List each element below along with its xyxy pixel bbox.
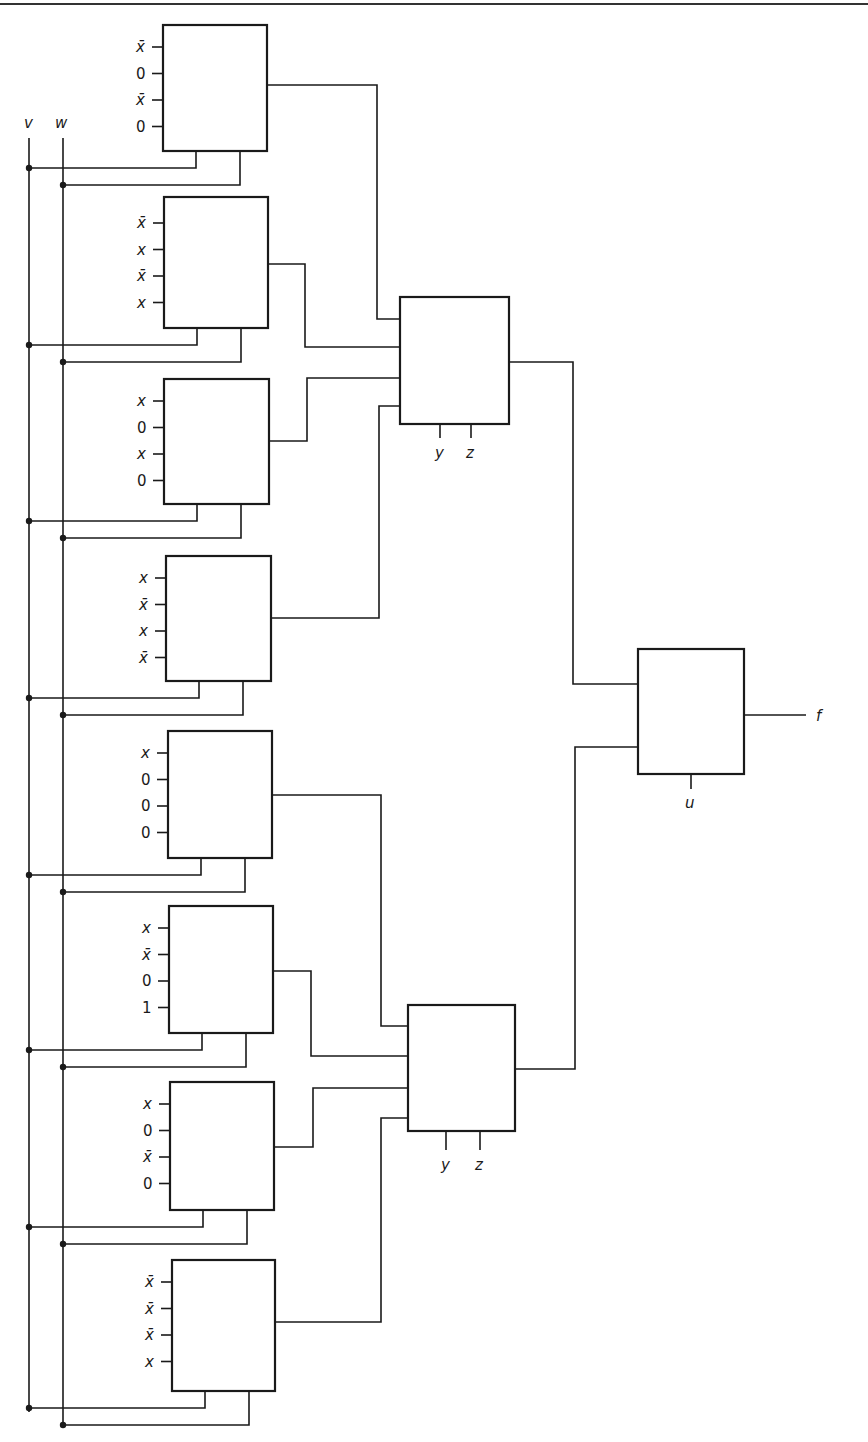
mux-10-select-y: y <box>440 1156 451 1174</box>
junction-dot <box>26 1224 32 1230</box>
mux-1-input-label: x̄ <box>135 38 145 56</box>
junction-dot <box>26 872 32 878</box>
mux-3-input-label: 0 <box>137 419 147 437</box>
select-label-v: v <box>24 114 34 132</box>
mux-5 <box>168 731 272 858</box>
mux-5-input-label: x <box>140 744 150 762</box>
mux-7-input-label: x̄ <box>142 1148 152 1166</box>
mux-4-input-label: x̄ <box>138 596 148 614</box>
junction-dot <box>60 359 66 365</box>
mux-1-select-v-wire <box>29 151 196 168</box>
junction-dot <box>26 1047 32 1053</box>
mux-7-select-v-wire <box>29 1210 203 1227</box>
junction-dot <box>26 1405 32 1411</box>
junction-dot <box>60 182 66 188</box>
junction-dot <box>60 889 66 895</box>
mux-6-input-label: 1 <box>142 999 152 1017</box>
wire-m4-to-m9 <box>271 406 400 618</box>
mux-6-input-label: x <box>141 919 151 937</box>
output-f-label: f <box>816 707 824 725</box>
wire-m2-to-m9 <box>268 264 400 347</box>
junction-dot <box>60 535 66 541</box>
mux-5-input-label: 0 <box>141 771 151 789</box>
wire-m1-to-m9 <box>267 85 400 319</box>
mux-1-input-label: 0 <box>136 118 146 136</box>
mux-7-input-label: 0 <box>143 1175 153 1193</box>
junction-dot <box>26 342 32 348</box>
mux-2 <box>164 197 268 328</box>
mux-8-input-label: x̄ <box>144 1273 154 1291</box>
mux-3-select-v-wire <box>29 504 197 521</box>
wire-m9-to-m11 <box>509 362 638 684</box>
junction-dot <box>60 1064 66 1070</box>
mux-1-input-label: x̄ <box>135 91 145 109</box>
wire-m10-to-m11 <box>515 747 638 1069</box>
mux-3-input-label: x <box>136 392 146 410</box>
select-label-w: w <box>55 114 68 132</box>
mux-1-input-label: 0 <box>136 65 146 83</box>
mux-8 <box>172 1260 275 1391</box>
wire-m3-to-m9 <box>269 378 400 441</box>
mux-4-input-label: x̄ <box>138 649 148 667</box>
mux-7-input-label: 0 <box>143 1122 153 1140</box>
mux-1 <box>163 25 267 151</box>
mux-5-input-label: 0 <box>141 797 151 815</box>
mux-3 <box>164 379 269 504</box>
junction-dot <box>26 518 32 524</box>
mux-2-input-label: x̄ <box>136 267 146 285</box>
mux-8-select-v-wire <box>29 1391 205 1408</box>
mux-11-select-u: u <box>685 794 695 812</box>
mux-9-select-z: z <box>465 444 475 462</box>
mux-7-input-label: x <box>142 1095 152 1113</box>
mux-3-input-label: 0 <box>137 472 147 490</box>
mux-3-input-label: x <box>136 445 146 463</box>
mux-4-select-v-wire <box>29 681 199 698</box>
mux-4-input-label: x <box>138 569 148 587</box>
mux-2-input-label: x <box>136 241 146 259</box>
junction-dot <box>26 695 32 701</box>
junction-dot <box>26 165 32 171</box>
mux-6-input-label: 0 <box>142 972 152 990</box>
junction-dot <box>60 1241 66 1247</box>
mux-8-input-label: x̄ <box>144 1300 154 1318</box>
mux-8-input-label: x <box>144 1353 154 1371</box>
mux-11-output <box>638 649 744 774</box>
mux-6-input-label: x̄ <box>141 946 151 964</box>
mux-4-input-label: x <box>138 622 148 640</box>
wire-m8-to-m10 <box>275 1118 408 1322</box>
mux-8-input-label: x̄ <box>144 1326 154 1344</box>
mux-2-input-label: x̄ <box>136 214 146 232</box>
junction-dot <box>60 1422 66 1428</box>
mux-10-select-z: z <box>474 1156 484 1174</box>
mux-6 <box>169 906 273 1033</box>
wire-m6-to-m10 <box>273 971 408 1056</box>
mux-4 <box>166 556 271 681</box>
wire-m5-to-m10 <box>272 795 408 1026</box>
mux-10 <box>408 1005 515 1131</box>
mux-2-input-label: x <box>136 294 146 312</box>
mux-9 <box>400 297 509 424</box>
mux-9-select-y: y <box>434 444 445 462</box>
mux-5-select-v-wire <box>29 858 201 875</box>
mux-7 <box>170 1082 274 1210</box>
multiplexer-tree-diagram: v w x̄0x̄0x̄xx̄xx0x0xx̄xx̄x000xx̄01x0x̄0… <box>0 0 868 1442</box>
mux-6-select-v-wire <box>29 1033 202 1050</box>
mux-5-input-label: 0 <box>141 824 151 842</box>
junction-dot <box>60 712 66 718</box>
mux-2-select-v-wire <box>29 328 197 345</box>
